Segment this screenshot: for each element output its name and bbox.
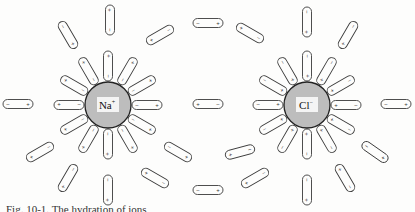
charge-sign: + bbox=[304, 132, 310, 136]
water-dipole: +− bbox=[276, 124, 299, 154]
free-water-dipole: +− bbox=[334, 163, 357, 193]
charge-sign: − bbox=[107, 28, 113, 32]
free-water-dipole: −+ bbox=[104, 175, 113, 205]
charge-sign: − bbox=[6, 101, 10, 107]
free-water-dipole: −+ bbox=[193, 19, 223, 28]
water-dipole: −+ bbox=[127, 113, 157, 136]
water-dipole: +− bbox=[326, 113, 356, 136]
charge-sign: + bbox=[276, 102, 280, 108]
charge-sign: − bbox=[105, 132, 111, 136]
water-dipole: −+ bbox=[104, 51, 113, 81]
charge-sign: + bbox=[404, 101, 408, 107]
water-dipole: +− bbox=[331, 101, 361, 110]
water-dipole: +− bbox=[258, 113, 288, 136]
free-water-dipole: −+ bbox=[303, 7, 312, 37]
water-dipole: −+ bbox=[77, 56, 100, 86]
charge-sign: + bbox=[26, 101, 30, 107]
water-dipole: −+ bbox=[127, 74, 157, 97]
water-dipole: +− bbox=[258, 74, 288, 97]
charge-sign: + bbox=[334, 102, 338, 108]
water-dipole: +− bbox=[253, 101, 283, 110]
free-water-dipole: +− bbox=[106, 5, 115, 35]
charge-sign: + bbox=[105, 198, 111, 202]
water-dipole: −+ bbox=[104, 129, 113, 159]
charge-sign: − bbox=[196, 187, 200, 193]
free-water-dipole: −+ bbox=[163, 141, 193, 164]
free-water-dipole: +− bbox=[25, 141, 55, 164]
water-dipole: −+ bbox=[116, 56, 139, 86]
charge-sign: + bbox=[57, 102, 61, 108]
free-water-dipole: −+ bbox=[57, 20, 80, 50]
water-dipole: +− bbox=[303, 129, 312, 159]
charge-sign: + bbox=[155, 102, 159, 108]
water-dipole: +− bbox=[276, 56, 299, 86]
water-dipole: −+ bbox=[54, 101, 84, 110]
water-dipole: +− bbox=[315, 124, 338, 154]
charge-sign: − bbox=[304, 178, 310, 182]
charge-sign: − bbox=[304, 10, 310, 14]
charge-sign: − bbox=[354, 102, 358, 108]
free-water-dipole: −+ bbox=[193, 186, 223, 195]
charge-sign: − bbox=[105, 74, 111, 78]
figure-caption: Fig. 10-1. The hydration of ions bbox=[6, 203, 147, 212]
charge-sign: − bbox=[105, 178, 111, 182]
water-dipole: −+ bbox=[116, 124, 139, 154]
hydration-diagram: −+−+−+−+−+−+−+−+−+−+−+−++−+−+−+−+−+−+−+−… bbox=[0, 0, 415, 212]
charge-sign: − bbox=[77, 102, 81, 108]
free-water-dipole: −+ bbox=[303, 175, 312, 205]
charge-sign: + bbox=[196, 101, 200, 107]
water-dipole: −+ bbox=[59, 74, 89, 97]
free-water-dipole: −+ bbox=[3, 100, 33, 109]
free-water-dipole: +− bbox=[337, 20, 360, 50]
free-water-dipole: +− bbox=[57, 163, 80, 193]
charge-sign: + bbox=[107, 8, 113, 12]
charge-sign: − bbox=[256, 102, 260, 108]
charge-sign: − bbox=[216, 101, 220, 107]
free-water-dipole: −+ bbox=[381, 100, 411, 109]
free-water-dipole: +− bbox=[240, 167, 270, 190]
free-water-dipole: +− bbox=[145, 24, 175, 47]
charge-sign: − bbox=[304, 54, 310, 58]
charge-sign: + bbox=[304, 74, 310, 78]
charge-sign: − bbox=[196, 20, 200, 26]
charge-sign: − bbox=[135, 102, 139, 108]
charge-sign: + bbox=[216, 187, 220, 193]
free-water-dipole: +− bbox=[193, 100, 223, 109]
charge-sign: + bbox=[105, 152, 111, 156]
free-water-dipole: +− bbox=[235, 22, 265, 45]
water-dipole: +− bbox=[326, 74, 356, 97]
water-dipole: +− bbox=[315, 56, 338, 86]
charge-sign: + bbox=[304, 30, 310, 34]
charge-sign: − bbox=[384, 101, 388, 107]
water-dipole: −+ bbox=[77, 124, 100, 154]
diagram-canvas: −+−+−+−+−+−+−+−+−+−+−+−++−+−+−+−+−+−+−+−… bbox=[0, 0, 415, 212]
charge-sign: + bbox=[216, 20, 220, 26]
charge-sign: + bbox=[304, 198, 310, 202]
free-water-dipole: +− bbox=[140, 167, 170, 190]
charge-sign: + bbox=[105, 54, 111, 58]
charge-sign: − bbox=[304, 152, 310, 156]
free-water-dipole: −+ bbox=[360, 140, 390, 165]
water-dipole: −+ bbox=[132, 101, 162, 110]
free-water-dipole: +− bbox=[224, 144, 255, 160]
water-dipole: +− bbox=[303, 51, 312, 81]
water-dipole: −+ bbox=[59, 113, 89, 136]
